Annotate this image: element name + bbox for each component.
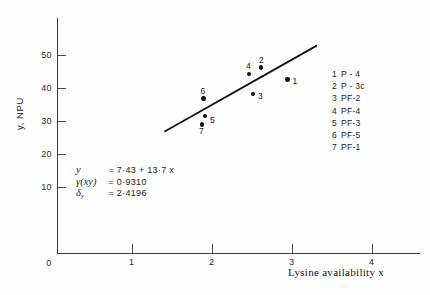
x-axis-title: Lysine availability x — [288, 266, 384, 278]
equation-value: = 7·43 + 13·7 x — [109, 165, 175, 175]
correlation-value: = 0·9310 — [109, 177, 147, 187]
data-point-label: 4 — [246, 61, 251, 71]
y-tick-label: 50 — [30, 50, 52, 60]
legend-sample-name: P - 3c — [341, 80, 365, 92]
scatter-plot-figure: 1020304050 1234 0 y, NPU Lysine availabi… — [0, 0, 430, 295]
legend-number: 2 — [328, 80, 341, 92]
correlation-row: γ(xy) = 0·9310 — [76, 176, 174, 188]
regression-statistics: y = 7·43 + 13·7 x γ(xy) = 0·9310 δy = 2·… — [76, 164, 174, 199]
x-tick-mark — [132, 244, 133, 253]
x-tick-mark — [372, 244, 373, 253]
legend-sample-name: PF-3 — [341, 117, 361, 129]
legend-sample-name: P - 4 — [341, 68, 360, 80]
legend-number: 4 — [328, 105, 341, 117]
regression-line — [0, 0, 430, 295]
data-point-marker[interactable] — [247, 72, 252, 77]
y-axis-title: y, NPU — [14, 97, 25, 130]
sigma-symbol: δy — [76, 187, 106, 203]
data-point-label: 5 — [210, 115, 215, 125]
y-tick-label: 40 — [30, 83, 52, 93]
data-point-label: 1 — [293, 76, 298, 86]
data-point-label: 7 — [199, 126, 204, 136]
legend-row[interactable]: 6PF-5 — [328, 129, 365, 141]
sigma-value: = 2·4196 — [109, 188, 147, 198]
equation-symbol: y — [76, 164, 106, 176]
y-tick-mark — [58, 187, 66, 188]
x-tick-mark — [292, 244, 293, 253]
legend-row[interactable]: 5PF-3 — [328, 117, 365, 129]
legend-sample-name: PF-2 — [341, 92, 361, 104]
legend-number: 6 — [328, 129, 341, 141]
y-tick-mark — [58, 121, 66, 122]
legend-number: 7 — [328, 141, 341, 153]
y-tick-label: 10 — [30, 182, 52, 192]
x-tick-label: 2 — [203, 257, 221, 267]
y-tick-label: 20 — [30, 149, 52, 159]
y-tick-label: 30 — [30, 116, 52, 126]
data-point-marker[interactable] — [203, 114, 208, 119]
x-axis-line — [57, 253, 420, 254]
legend-row[interactable]: 7PF-1 — [328, 141, 365, 153]
data-point-label: 6 — [201, 86, 206, 96]
correlation-symbol: γ(xy) — [76, 176, 106, 188]
data-point-marker[interactable] — [251, 92, 256, 97]
legend-sample-name: PF-1 — [341, 141, 361, 153]
legend-row[interactable]: 4PF-4 — [328, 105, 365, 117]
sigma-row: δy = 2·4196 — [76, 187, 174, 199]
x-tick-mark — [212, 244, 213, 253]
x-tick-label: 1 — [123, 257, 141, 267]
origin-tick-label: 0 — [40, 258, 58, 268]
legend-number: 3 — [328, 92, 341, 104]
y-tick-mark — [58, 88, 66, 89]
legend-number: 5 — [328, 117, 341, 129]
data-point-marker[interactable] — [285, 77, 290, 82]
data-point-label: 2 — [259, 55, 264, 65]
data-point-marker[interactable] — [201, 96, 206, 101]
legend: 1P - 42P - 3c3PF-24PF-45PF-36PF-57PF-1 — [328, 68, 365, 153]
legend-row[interactable]: 3PF-2 — [328, 92, 365, 104]
legend-sample-name: PF-5 — [341, 129, 361, 141]
legend-row[interactable]: 1P - 4 — [328, 68, 365, 80]
y-tick-mark — [58, 154, 66, 155]
data-point-marker[interactable] — [259, 65, 264, 70]
y-tick-mark — [58, 55, 66, 56]
y-axis-line — [57, 18, 58, 254]
equation-row: y = 7·43 + 13·7 x — [76, 164, 174, 176]
data-point-label: 3 — [258, 91, 263, 101]
legend-row[interactable]: 2P - 3c — [328, 80, 365, 92]
legend-number: 1 — [328, 68, 341, 80]
legend-sample-name: PF-4 — [341, 105, 361, 117]
